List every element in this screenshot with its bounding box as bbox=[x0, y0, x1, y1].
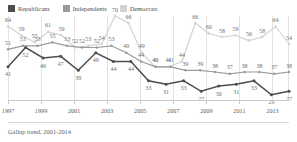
chart-figure: Republicans Independents Democrats 64595… bbox=[0, 0, 297, 142]
x-axis-tick-labels: 199719992001200320052007200920112013 bbox=[8, 107, 289, 117]
data-point bbox=[60, 34, 62, 36]
data-point-label: 58 bbox=[259, 28, 265, 34]
data-point-label: 37 bbox=[271, 64, 277, 70]
data-point-label: 53 bbox=[20, 36, 26, 42]
data-point bbox=[288, 71, 290, 73]
legend-item-republicans: Republicans bbox=[8, 5, 50, 12]
data-point-label: 66 bbox=[192, 14, 198, 20]
data-point-label: 52 bbox=[94, 38, 100, 44]
x-axis-tick-label: 2009 bbox=[200, 107, 212, 114]
data-point-label: 44 bbox=[179, 52, 185, 58]
data-point-label: 53 bbox=[109, 36, 115, 42]
data-point bbox=[66, 45, 68, 47]
x-axis-tick bbox=[41, 100, 42, 104]
plot-area: 6459556159525354706649414144666058595658… bbox=[8, 16, 289, 100]
data-point bbox=[184, 69, 186, 71]
data-point bbox=[288, 43, 290, 45]
data-point-label: 49 bbox=[93, 57, 99, 63]
data-point bbox=[125, 52, 127, 54]
legend-item-democrats: Democrats bbox=[120, 5, 158, 12]
data-point bbox=[42, 57, 45, 60]
square-swatch-icon bbox=[120, 5, 127, 12]
data-point-label: 53 bbox=[35, 36, 41, 42]
data-point-label: 41 bbox=[168, 57, 174, 63]
data-point-label: 38 bbox=[286, 63, 292, 69]
data-point bbox=[147, 79, 150, 82]
data-point bbox=[110, 45, 112, 47]
x-axis-tick-label: 2005 bbox=[134, 107, 146, 114]
data-point-label: 41 bbox=[153, 57, 159, 63]
data-point-label: 61 bbox=[45, 22, 51, 28]
data-point bbox=[243, 71, 245, 73]
data-point-label: 56 bbox=[246, 31, 252, 37]
data-point-label: 53 bbox=[64, 36, 70, 42]
data-point-label: 52 bbox=[23, 52, 29, 58]
footer-divider bbox=[8, 122, 289, 123]
square-swatch-icon bbox=[63, 5, 70, 12]
x-axis-tick bbox=[74, 100, 75, 104]
data-point bbox=[140, 60, 142, 62]
data-point bbox=[199, 69, 201, 71]
data-point-label: 41 bbox=[5, 71, 11, 77]
data-point-label: 54 bbox=[286, 35, 292, 41]
data-point bbox=[221, 36, 223, 38]
data-point bbox=[24, 46, 27, 49]
data-point bbox=[155, 66, 157, 68]
data-point bbox=[87, 45, 89, 47]
data-point bbox=[59, 55, 62, 58]
data-point bbox=[270, 93, 273, 96]
x-axis-tick bbox=[272, 100, 273, 104]
data-point bbox=[101, 43, 103, 45]
x-axis-tick-label: 2003 bbox=[101, 107, 113, 114]
data-point bbox=[170, 66, 172, 68]
data-point bbox=[7, 65, 10, 68]
data-point bbox=[77, 69, 80, 72]
data-point bbox=[214, 71, 216, 73]
data-point bbox=[248, 39, 250, 41]
data-point-label: 58 bbox=[219, 28, 225, 34]
data-point-label: 44 bbox=[138, 52, 144, 58]
x-axis-tick-label: 2001 bbox=[68, 107, 80, 114]
data-point-label: 39 bbox=[183, 61, 189, 67]
data-point bbox=[127, 22, 129, 24]
data-point bbox=[229, 73, 231, 75]
data-point bbox=[274, 25, 276, 27]
data-point-label: 33 bbox=[146, 85, 152, 91]
x-axis-tick bbox=[8, 100, 9, 104]
legend-item-independents: Independents bbox=[63, 5, 107, 12]
data-point-label: 33 bbox=[251, 85, 257, 91]
data-point-label: 49 bbox=[139, 43, 145, 49]
data-point-label: 70 bbox=[112, 7, 118, 13]
legend-label: Independents bbox=[73, 5, 107, 12]
data-point-label: 52 bbox=[72, 38, 78, 44]
data-point bbox=[7, 25, 9, 27]
data-point-label: 31 bbox=[233, 89, 239, 95]
data-point bbox=[51, 41, 53, 43]
legend-label: Democrats bbox=[130, 5, 158, 12]
data-point bbox=[81, 46, 83, 48]
data-point bbox=[94, 51, 97, 54]
data-point-label: 66 bbox=[125, 14, 131, 20]
data-point bbox=[112, 60, 115, 63]
data-point-label: 60 bbox=[206, 24, 212, 30]
x-axis-tick bbox=[206, 100, 207, 104]
data-point bbox=[182, 79, 185, 82]
data-point bbox=[208, 32, 210, 34]
data-point-label: 31 bbox=[163, 89, 169, 95]
x-axis-tick-label: 2007 bbox=[167, 107, 179, 114]
data-point-label: 39 bbox=[197, 61, 203, 67]
x-axis-tick-label: 2013 bbox=[266, 107, 278, 114]
data-point bbox=[114, 15, 116, 17]
data-point-label: 52 bbox=[79, 38, 85, 44]
data-point-label: 59 bbox=[59, 26, 65, 32]
data-point-label: 59 bbox=[233, 26, 239, 32]
data-point bbox=[288, 90, 291, 93]
legend-label: Republicans bbox=[18, 5, 50, 12]
data-point bbox=[235, 83, 238, 86]
x-axis-tick bbox=[239, 100, 240, 104]
data-point-label: 39 bbox=[75, 75, 81, 81]
data-point bbox=[252, 79, 255, 82]
data-point-label: 38 bbox=[212, 63, 218, 69]
source-note: Gallup trend, 2001-2014 bbox=[8, 128, 71, 135]
x-axis-tick bbox=[140, 100, 141, 104]
